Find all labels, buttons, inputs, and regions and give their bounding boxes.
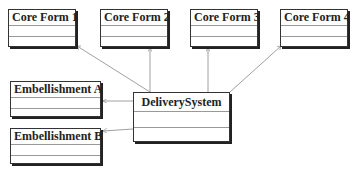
link-delivery-embB [103, 129, 133, 131]
class-core-form-2[interactable]: Core Form 2 [100, 9, 168, 47]
class-attributes [11, 98, 100, 109]
class-name: DeliverySystem [134, 93, 229, 112]
class-name: Core Form 2 [101, 10, 167, 26]
class-attributes [134, 112, 229, 128]
class-name: Embellishment A [11, 82, 100, 98]
class-core-form-3[interactable]: Core Form 3 [190, 9, 258, 47]
class-attributes [9, 26, 75, 37]
class-name: Core Form 4 [281, 10, 347, 26]
class-attributes [101, 26, 167, 37]
class-embellishment-a[interactable]: Embellishment A [10, 81, 101, 117]
class-attributes [11, 145, 100, 156]
class-core-form-1[interactable]: Core Form 1 [8, 9, 76, 47]
class-core-form-4[interactable]: Core Form 4 [280, 9, 348, 47]
class-attributes [191, 26, 257, 37]
link-delivery-core4 [230, 46, 281, 92]
class-delivery-system[interactable]: DeliverySystem [133, 92, 230, 142]
class-name: Core Form 3 [191, 10, 257, 26]
class-attributes [281, 26, 347, 37]
class-name: Embellishment B [11, 129, 100, 145]
class-embellishment-b[interactable]: Embellishment B [10, 128, 101, 164]
class-name: Core Form 1 [9, 10, 75, 26]
